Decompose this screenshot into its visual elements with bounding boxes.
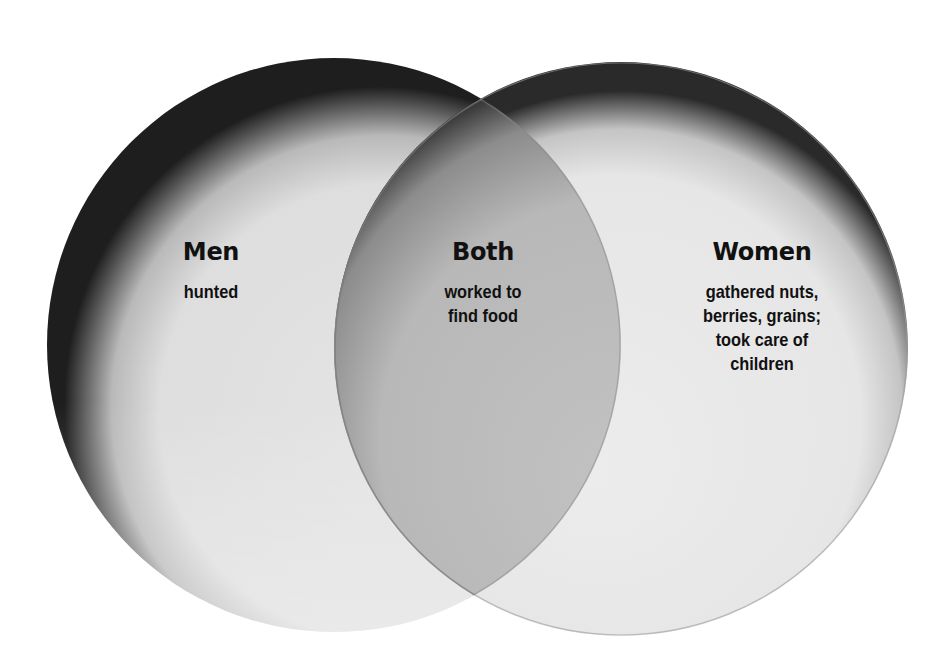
women-description-line: berries, grains; <box>689 304 835 328</box>
men-title: Men <box>131 238 291 266</box>
men-description-line: hunted <box>142 280 280 304</box>
women-description-line: gathered nuts, <box>689 280 835 304</box>
women-label-group: Women gathered nuts, berries, grains; to… <box>677 238 847 376</box>
women-description-line: children <box>689 352 835 376</box>
men-label-group: Men hunted <box>131 238 291 304</box>
both-description: worked to find food <box>414 280 552 328</box>
both-title: Both <box>403 238 563 266</box>
women-description-line: took care of <box>689 328 835 352</box>
women-description: gathered nuts, berries, grains; took car… <box>689 280 835 376</box>
both-label-group: Both worked to find food <box>403 238 563 328</box>
women-title: Women <box>677 238 847 266</box>
both-description-line: worked to <box>414 280 552 304</box>
men-description: hunted <box>142 280 280 304</box>
both-description-line: find food <box>414 304 552 328</box>
